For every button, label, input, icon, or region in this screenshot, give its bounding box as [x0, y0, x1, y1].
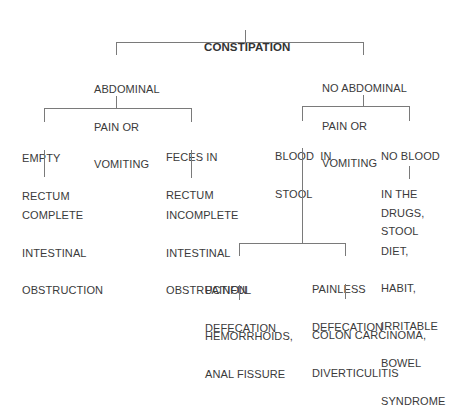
node-label: ABDOMINAL	[94, 83, 160, 96]
root-node-constipation: CONSTIPATION	[204, 16, 290, 66]
connector-line	[239, 285, 240, 300]
connector-line	[191, 150, 192, 178]
node-blood-in-stool: BLOOD IN STOOL	[275, 125, 332, 213]
connector-line	[345, 284, 346, 299]
node-label: INCOMPLETE	[166, 209, 247, 222]
node-label: INTESTINAL	[166, 247, 247, 260]
connector-line	[44, 108, 45, 122]
node-label: DIVERTICULITIS	[312, 367, 426, 380]
connector-line	[363, 95, 364, 106]
node-label: ANAL FISSURE	[205, 368, 293, 381]
node-label: HEMORRHOIDS,	[205, 330, 293, 343]
node-label: VOMITING	[94, 158, 160, 171]
node-hemorrhoids-fissure: HEMORRHOIDS, ANAL FISSURE	[205, 305, 293, 393]
node-label: PAINLESS	[312, 283, 383, 296]
node-label: NO BLOOD	[381, 150, 440, 163]
connector-line	[409, 106, 410, 121]
connector-line	[116, 42, 117, 55]
connector-line	[302, 106, 303, 121]
node-complete-obstruction: COMPLETE INTESTINAL OBSTRUCTION	[22, 184, 103, 309]
connector-line	[44, 108, 192, 109]
node-label: INTESTINAL	[22, 247, 103, 260]
node-label: EMPTY	[22, 152, 70, 165]
node-label: SYNDROME	[381, 395, 445, 408]
node-label: COMPLETE	[22, 209, 103, 222]
node-colon-carcinoma-diverticulitis: COLON CARCINOMA, DIVERTICULITIS	[312, 304, 426, 392]
node-label: STOOL	[275, 188, 332, 201]
node-label: COLON CARCINOMA,	[312, 329, 426, 342]
connector-line	[302, 148, 303, 243]
connector-line	[191, 108, 192, 122]
connector-line	[363, 42, 364, 55]
connector-line	[302, 106, 410, 107]
connector-line	[239, 243, 346, 244]
connector-line	[409, 166, 410, 179]
node-label: BLOOD IN	[275, 150, 332, 163]
connector-line	[44, 150, 45, 177]
node-abdominal-pain: ABDOMINAL PAIN OR VOMITING	[94, 58, 160, 183]
connector-line	[116, 42, 364, 43]
node-label: NO ABDOMINAL	[322, 82, 407, 95]
connector-line	[116, 96, 117, 108]
connector-line	[345, 243, 346, 256]
connector-line	[245, 30, 246, 42]
node-label: PAINFUL	[205, 284, 276, 297]
connector-line	[239, 243, 240, 256]
node-label: DIET,	[381, 245, 445, 258]
node-label: OBSTRUCTION	[22, 284, 103, 297]
node-label: HABIT,	[381, 282, 445, 295]
node-label: PAIN OR	[94, 121, 160, 134]
node-label: DRUGS,	[381, 207, 445, 220]
